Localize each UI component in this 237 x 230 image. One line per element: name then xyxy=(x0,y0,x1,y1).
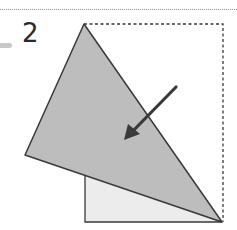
fold-diagram xyxy=(0,0,237,230)
